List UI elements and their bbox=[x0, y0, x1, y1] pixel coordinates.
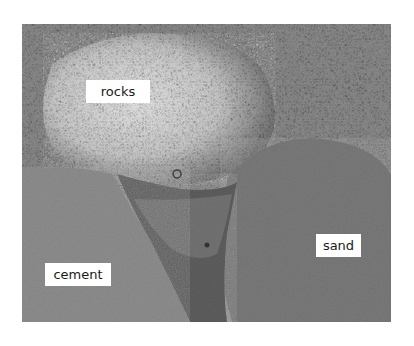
pebble bbox=[205, 243, 210, 248]
rocks-label: rocks bbox=[86, 80, 150, 103]
cement-label: cement bbox=[45, 263, 111, 286]
sand-region bbox=[221, 139, 391, 323]
sand-label: sand bbox=[316, 234, 361, 257]
rocks-region bbox=[43, 33, 275, 185]
